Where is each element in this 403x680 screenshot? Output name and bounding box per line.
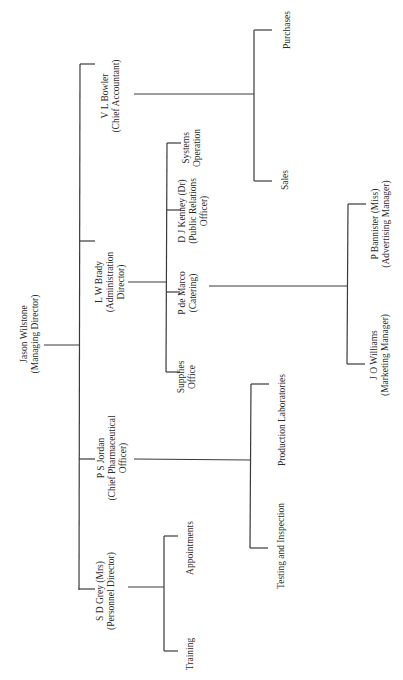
node-name: P S Jordan	[96, 415, 107, 500]
node-role: (Personnel Director)	[106, 552, 117, 630]
node-role: (Chief Pharmaceutical	[107, 415, 118, 500]
node-name: Purchases	[282, 11, 293, 49]
node-role: (Advertising Manager)	[381, 180, 392, 267]
node-name: Systems	[181, 129, 192, 167]
node-sales: Sales	[280, 170, 291, 190]
node-name: Appointments	[185, 521, 196, 575]
node-name: D J Kenney (Dr)	[177, 178, 188, 244]
node-role: Office	[187, 361, 198, 394]
node-chief-pharmaceutical-officer: P S Jordan (Chief Pharmaceutical Officer…	[96, 415, 129, 500]
node-purchases: Purchases	[282, 11, 293, 49]
node-administration-director: L W Brady (Administration Director)	[94, 252, 127, 313]
node-production-laboratories: Production Laboratories	[277, 374, 288, 466]
connector-marketing-spine	[347, 204, 348, 364]
node-name: Sales	[280, 170, 291, 190]
node-name: Jason Wilstone	[19, 295, 30, 374]
org-chart-connectors	[0, 0, 403, 680]
node-name: P de Marco	[177, 271, 188, 314]
node-role: (Marketing Manager)	[380, 314, 391, 396]
node-role: (Administration	[105, 252, 116, 313]
node-name: S D Grey (Mrs)	[95, 552, 106, 630]
node-role: Director)	[116, 252, 127, 313]
node-role: Officer)	[118, 415, 129, 500]
node-marketing-manager: J O Williams (Marketing Manager)	[369, 314, 391, 396]
node-name: Supplies	[176, 361, 187, 394]
node-name: V L Bowler	[100, 59, 111, 132]
node-systems-operation: Systems Operation	[181, 129, 203, 167]
connector-jordan-spine	[250, 384, 251, 548]
connector-main-spine	[79, 64, 80, 590]
node-role: Officer)	[199, 178, 210, 244]
node-chief-accountant: V L Bowler (Chief Accountant)	[100, 59, 122, 132]
node-advertising-manager: P Bannister (Miss) (Advertising Manager)	[370, 180, 392, 267]
node-training: Training	[185, 638, 196, 670]
node-managing-director: Jason Wilstone (Managing Director)	[19, 295, 41, 374]
node-supplies-office: Supplies Office	[176, 361, 198, 394]
node-personnel-director: S D Grey (Mrs) (Personnel Director)	[95, 552, 117, 630]
node-role: (Managing Director)	[30, 295, 41, 374]
node-public-relations-officer: D J Kenney (Dr) (Public Relations Office…	[177, 178, 210, 244]
node-name: L W Brady	[94, 252, 105, 313]
node-name: J O Williams	[369, 314, 380, 396]
node-appointments: Appointments	[185, 521, 196, 575]
node-name: P Bannister (Miss)	[370, 180, 381, 267]
connector-brady-spine	[166, 143, 167, 372]
node-name: Training	[185, 638, 196, 670]
node-role: Operation	[192, 129, 203, 167]
connector-jordan-out	[134, 459, 251, 460]
node-catering: P de Marco (Catering)	[177, 271, 199, 314]
node-name: Testing and Inspection	[276, 503, 287, 589]
node-role: (Catering)	[188, 271, 199, 314]
node-role: (Chief Accountant)	[111, 59, 122, 132]
node-role: (Public Relations	[188, 178, 199, 244]
node-testing-inspection: Testing and Inspection	[276, 503, 287, 589]
node-name: Production Laboratories	[277, 374, 288, 466]
